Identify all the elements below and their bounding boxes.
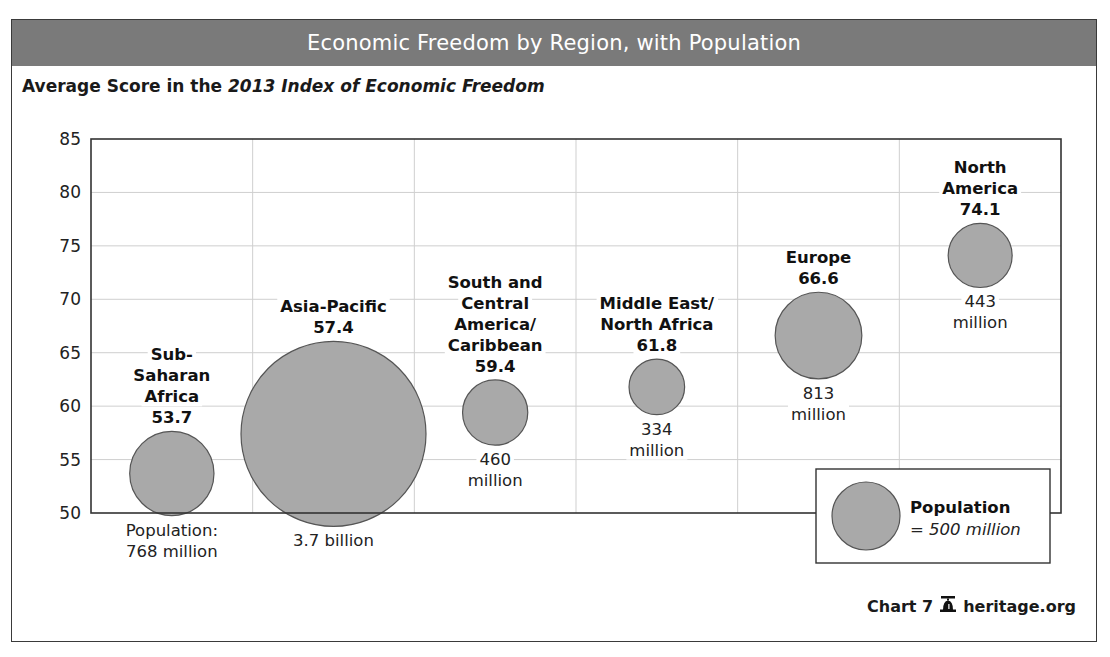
- legend: Population= 500 million: [816, 469, 1050, 563]
- region-name: Sub-: [151, 345, 193, 364]
- population-label: 768 million: [126, 542, 218, 561]
- bubble-europe: [775, 292, 862, 379]
- region-score: 74.1: [960, 200, 1001, 219]
- population-label: 334: [641, 420, 673, 439]
- liberty-bell-icon: [939, 595, 957, 617]
- y-tick-label: 50: [59, 503, 81, 523]
- bubble-middle-east-north-africa: [629, 359, 685, 415]
- region-name: Middle East/: [600, 294, 715, 313]
- legend-subtitle: = 500 million: [910, 520, 1021, 539]
- region-score: 66.6: [798, 269, 839, 288]
- population-label: million: [791, 405, 846, 424]
- region-name: Africa: [145, 387, 200, 406]
- region-name: Central: [461, 294, 529, 313]
- source-link[interactable]: heritage.org: [963, 597, 1076, 616]
- y-tick-label: 60: [59, 396, 81, 416]
- y-tick-label: 85: [59, 129, 81, 149]
- region-score: 61.8: [636, 336, 677, 355]
- region-name: Caribbean: [448, 336, 543, 355]
- region-name: America/: [454, 315, 537, 334]
- legend-title: Population: [910, 498, 1010, 517]
- gridlines: [91, 139, 1061, 513]
- bubble-north-america: [948, 223, 1012, 287]
- legend-bubble: [832, 482, 900, 550]
- region-score: 53.7: [151, 408, 192, 427]
- region-score: 57.4: [313, 318, 354, 337]
- y-tick-label: 65: [59, 343, 81, 363]
- y-tick-label: 55: [59, 450, 81, 470]
- population-label: million: [629, 441, 684, 460]
- region-name: South and: [448, 273, 543, 292]
- region-name: Asia-Pacific: [280, 297, 386, 316]
- bubble-south-and-central-america-caribbean: [463, 380, 528, 445]
- y-tick-label: 70: [59, 289, 81, 309]
- bubble-chart: 5055606570758085Sub-SaharanAfrica53.7Pop…: [0, 0, 1110, 657]
- population-label: million: [468, 471, 523, 490]
- population-label: 460: [479, 450, 511, 469]
- population-label: 813: [803, 384, 835, 403]
- region-score: 59.4: [475, 357, 516, 376]
- region-name: North Africa: [600, 315, 713, 334]
- bubble-asia-pacific: [241, 341, 426, 526]
- region-name: America: [942, 179, 1018, 198]
- population-label: 3.7 billion: [293, 531, 374, 550]
- chart-footer: Chart 7 heritage.org: [867, 595, 1076, 617]
- chart-number: Chart 7: [867, 597, 933, 616]
- population-label: 443: [964, 292, 996, 311]
- region-name: Saharan: [133, 366, 210, 385]
- population-label: Population:: [126, 521, 218, 540]
- y-tick-label: 75: [59, 236, 81, 256]
- bubble-sub-saharan-africa: [130, 431, 214, 515]
- population-label: million: [953, 313, 1008, 332]
- region-name: North: [954, 158, 1007, 177]
- region-name: Europe: [786, 248, 852, 267]
- y-tick-label: 80: [59, 182, 81, 202]
